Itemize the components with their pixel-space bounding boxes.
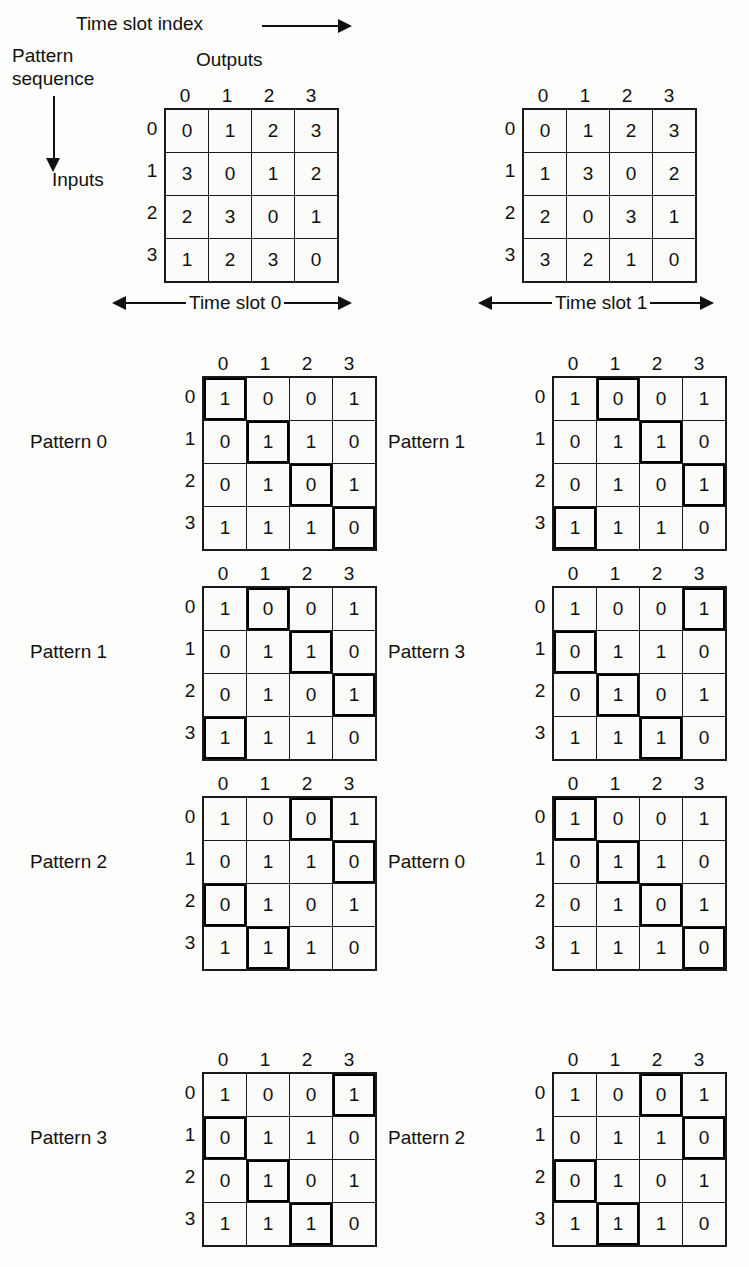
row-index: 3 (528, 502, 552, 544)
col-index: 3 (678, 1048, 720, 1072)
pattern-row-headers: 0123 (528, 376, 552, 551)
matrix-cell: 1 (203, 587, 247, 631)
col-index: 2 (636, 352, 678, 376)
col-index: 1 (244, 562, 286, 586)
matrix-cell-highlighted: 0 (597, 377, 640, 421)
matrix-cell-highlighted: 0 (290, 464, 333, 507)
matrix-cell: 0 (333, 1203, 377, 1247)
row-index: 2 (178, 670, 202, 712)
matrix-cell: 0 (653, 239, 697, 283)
matrix-cell-highlighted: 0 (683, 1117, 727, 1160)
col-index: 0 (164, 84, 206, 108)
row-index: 3 (178, 922, 202, 964)
time-slot-0-label: Time slot 0 (186, 292, 284, 314)
matrix-cell: 0 (553, 841, 597, 884)
matrix-cell: 3 (567, 153, 610, 196)
pattern-label: Pattern 3 (30, 1126, 107, 1149)
matrix-cell: 1 (247, 884, 290, 927)
allocation-1-column-headers: 0 1 2 3 (522, 84, 697, 108)
matrix-row: 2031 (523, 196, 696, 239)
matrix-cell: 0 (597, 1073, 640, 1117)
pattern-row-headers: 0123 (528, 1072, 552, 1247)
matrix-cell-highlighted: 1 (290, 1203, 333, 1247)
matrix-cell: 0 (333, 631, 377, 674)
matrix-cell: 3 (523, 239, 567, 283)
allocation-matrix-slot-0: 0 1 2 3 0 1 2 3 0123301223011230 (140, 84, 339, 283)
matrix-cell: 1 (333, 797, 377, 841)
matrix-cell: 1 (683, 797, 727, 841)
matrix-cell-highlighted: 1 (247, 927, 290, 971)
matrix-cell: 0 (523, 109, 567, 153)
matrix-cell-highlighted: 1 (290, 631, 333, 674)
pattern-label: Pattern 0 (30, 430, 107, 453)
matrix-cell: 1 (640, 1117, 683, 1160)
col-index: 2 (636, 772, 678, 796)
row-index: 1 (528, 1114, 552, 1156)
row-index: 3 (178, 502, 202, 544)
col-index: 0 (522, 84, 564, 108)
matrix-cell: 1 (610, 239, 653, 283)
matrix-cell: 0 (640, 1160, 683, 1203)
matrix-cell: 0 (683, 421, 727, 464)
row-index: 3 (528, 1198, 552, 1240)
pattern-matrix-right-1: 012301231001011001011110 (528, 562, 727, 761)
row-index: 3 (178, 1198, 202, 1240)
matrix-row: 1110 (553, 717, 726, 761)
matrix-cell: 0 (553, 1117, 597, 1160)
matrix-cell: 1 (597, 421, 640, 464)
col-index: 0 (202, 352, 244, 376)
matrix-row: 0123 (523, 109, 696, 153)
col-index: 2 (286, 1048, 328, 1072)
matrix-row: 1001 (203, 587, 376, 631)
row-index: 2 (528, 880, 552, 922)
matrix-cell: 1 (247, 507, 290, 551)
pattern-matrix-right-0: 012301231001011001011110 (528, 352, 727, 551)
matrix-cell-highlighted: 1 (203, 377, 247, 421)
matrix-cell: 1 (290, 717, 333, 761)
col-index: 3 (678, 562, 720, 586)
pattern-label: Pattern 1 (30, 640, 107, 663)
matrix-row: 0110 (553, 841, 726, 884)
time-slot-0-bracket: Time slot 0 (112, 292, 352, 314)
matrix-cell: 0 (247, 797, 290, 841)
time-slot-index-label: Time slot index (76, 12, 203, 35)
matrix-cell: 0 (290, 1073, 333, 1117)
col-index: 0 (552, 772, 594, 796)
matrix-cell: 0 (333, 927, 377, 971)
pattern-column-headers: 0123 (552, 352, 727, 376)
col-index: 2 (286, 352, 328, 376)
row-index: 0 (528, 586, 552, 628)
matrix-cell: 3 (209, 196, 252, 239)
matrix-cell: 1 (247, 631, 290, 674)
row-index: 2 (528, 1156, 552, 1198)
matrix-cell: 0 (203, 421, 247, 464)
row-index: 2 (498, 192, 522, 234)
matrix-cell-highlighted: 1 (683, 587, 727, 631)
matrix-cell: 1 (290, 421, 333, 464)
matrix-cell: 3 (165, 153, 209, 196)
pattern-label: Pattern 2 (30, 850, 107, 873)
matrix-cell: 0 (333, 421, 377, 464)
col-index: 3 (328, 352, 370, 376)
matrix-cell: 0 (640, 377, 683, 421)
matrix-row: 0101 (203, 884, 376, 927)
matrix-row: 1110 (203, 927, 376, 971)
pattern-grid: 1001011001011110 (202, 796, 377, 971)
matrix-cell: 1 (553, 587, 597, 631)
matrix-cell: 0 (203, 631, 247, 674)
col-index: 2 (636, 1048, 678, 1072)
col-index: 1 (244, 1048, 286, 1072)
pattern-row-headers: 0123 (528, 796, 552, 971)
col-index: 2 (606, 84, 648, 108)
matrix-cell: 1 (553, 717, 597, 761)
matrix-row: 0110 (203, 1117, 376, 1160)
row-index: 1 (178, 838, 202, 880)
matrix-cell: 1 (333, 587, 377, 631)
col-index: 1 (594, 772, 636, 796)
pattern-column-headers: 0123 (202, 1048, 377, 1072)
matrix-cell-highlighted: 1 (333, 1073, 377, 1117)
matrix-cell: 0 (683, 841, 727, 884)
matrix-row: 0101 (553, 1160, 726, 1203)
matrix-cell: 1 (653, 196, 697, 239)
matrix-cell: 1 (553, 927, 597, 971)
